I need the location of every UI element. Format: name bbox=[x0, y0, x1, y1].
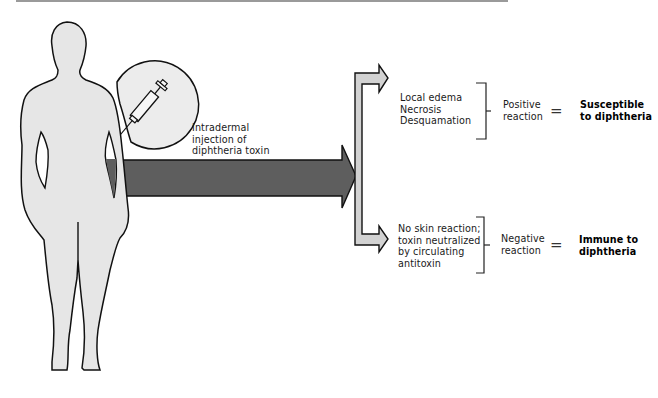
branch-arrow bbox=[355, 65, 388, 252]
injection-inset bbox=[116, 61, 199, 149]
finding-necrosis: Necrosis bbox=[400, 104, 441, 115]
positive-reaction-line-1: Positive bbox=[503, 99, 541, 110]
negative-reaction-line-1: Negative bbox=[501, 233, 545, 244]
negative-reaction-label: Negative reaction bbox=[501, 233, 545, 256]
finding-local-edema: Local edema bbox=[400, 92, 462, 103]
finding-no-skin-reaction: No skin reaction; bbox=[398, 223, 481, 234]
susceptible-result: Susceptible to diphtheria bbox=[580, 99, 652, 122]
immune-line-2: diphtheria bbox=[579, 246, 636, 257]
finding-desquamation: Desquamation bbox=[400, 115, 471, 126]
immune-result: Immune to diphtheria bbox=[579, 234, 638, 257]
injection-label-line-3: diphtheria toxin bbox=[192, 145, 270, 156]
injection-label-line-2: injection of bbox=[192, 134, 246, 145]
negative-reaction-line-2: reaction bbox=[501, 245, 541, 256]
injection-label: Intradermal injection of diphtheria toxi… bbox=[192, 122, 270, 157]
finding-toxin-neutralized: toxin neutralized bbox=[398, 235, 481, 246]
positive-findings: Local edema Necrosis Desquamation bbox=[400, 92, 471, 127]
human-figure bbox=[21, 22, 129, 370]
susceptible-line-2: to diphtheria bbox=[580, 111, 652, 122]
positive-reaction-line-2: reaction bbox=[503, 111, 543, 122]
positive-reaction-label: Positive reaction bbox=[503, 99, 543, 122]
diagram-artwork bbox=[0, 0, 658, 398]
finding-antitoxin: antitoxin bbox=[398, 258, 441, 269]
finding-by-circulating: by circulating bbox=[398, 246, 464, 257]
negative-findings: No skin reaction; toxin neutralized by c… bbox=[398, 223, 481, 269]
injection-label-line-1: Intradermal bbox=[192, 122, 249, 133]
negative-equals-sign: = bbox=[550, 238, 563, 253]
immune-line-1: Immune to bbox=[579, 234, 638, 245]
susceptible-line-1: Susceptible bbox=[580, 99, 644, 110]
bracket-positive bbox=[476, 83, 491, 139]
positive-equals-sign: = bbox=[550, 104, 563, 119]
